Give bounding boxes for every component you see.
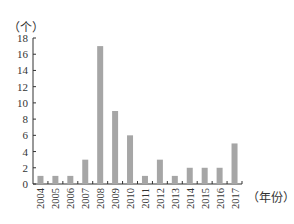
bar-2013 bbox=[172, 176, 178, 184]
y-tick-label: 2 bbox=[23, 162, 29, 174]
bar-2015 bbox=[202, 168, 208, 184]
bar-2012 bbox=[157, 160, 163, 184]
bar-2014 bbox=[187, 168, 193, 184]
x-tick-label: 2010 bbox=[125, 188, 136, 209]
x-tick-label: 2005 bbox=[50, 188, 61, 209]
y-tick-label: 16 bbox=[17, 48, 29, 60]
x-tick-label: 2008 bbox=[95, 188, 106, 209]
bar-2005 bbox=[52, 176, 58, 184]
x-tick-label: 2004 bbox=[35, 187, 46, 209]
bar-2008 bbox=[97, 46, 103, 184]
x-tick-label: 2016 bbox=[215, 188, 226, 209]
y-tick-label: 0 bbox=[23, 178, 29, 190]
x-tick-label: 2011 bbox=[140, 188, 151, 209]
x-tick-label: 2012 bbox=[155, 188, 166, 209]
bar-2011 bbox=[142, 176, 148, 184]
bar-2017 bbox=[232, 143, 238, 184]
bar-2007 bbox=[82, 160, 88, 184]
y-tick-label: 12 bbox=[17, 81, 28, 93]
y-tick-label: 10 bbox=[17, 97, 29, 109]
y-tick-label: 8 bbox=[23, 113, 29, 125]
x-tick-label: 2013 bbox=[170, 188, 181, 209]
x-tick-label: 2009 bbox=[110, 188, 121, 209]
y-tick-label: 6 bbox=[23, 129, 29, 141]
y-tick-label: 18 bbox=[17, 32, 29, 44]
x-tick-label: 2007 bbox=[80, 188, 91, 209]
y-tick-label: 4 bbox=[23, 146, 29, 158]
bar-2004 bbox=[37, 176, 43, 184]
x-tick-label: 2015 bbox=[200, 188, 211, 209]
x-tick-label: 2006 bbox=[65, 188, 76, 209]
x-tick-label: 2014 bbox=[185, 187, 196, 209]
x-tick-label: 2017 bbox=[230, 188, 241, 209]
y-tick-label: 14 bbox=[17, 64, 29, 76]
bar-chart: 0246810121416182004200520062007200820092… bbox=[0, 0, 294, 224]
bar-2009 bbox=[112, 111, 118, 184]
bar-2006 bbox=[67, 176, 73, 184]
bar-2010 bbox=[127, 135, 133, 184]
bar-2016 bbox=[217, 168, 223, 184]
